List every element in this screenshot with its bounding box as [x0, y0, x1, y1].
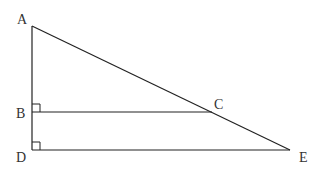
point-label-A: A	[17, 12, 28, 27]
right-angle-mark-D	[32, 142, 40, 150]
segment-AE	[32, 26, 290, 150]
point-label-E: E	[299, 150, 308, 165]
point-label-D: D	[16, 150, 26, 165]
diagram-svg: A B C D E	[0, 0, 323, 169]
point-label-B: B	[16, 106, 25, 121]
point-label-C: C	[214, 97, 223, 112]
geometry-diagram: A B C D E	[0, 0, 323, 169]
right-angle-mark-B	[32, 104, 40, 112]
